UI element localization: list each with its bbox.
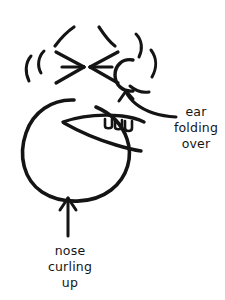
ear-label-line-1: ear [185, 104, 207, 119]
ear-folding-over-label: ear folding over [174, 104, 218, 151]
ear-pointer-arrow [119, 91, 176, 117]
ear-label-line-2: folding [174, 120, 218, 135]
motion-arc-top-right [99, 27, 115, 46]
motion-arc-right-outer [151, 50, 156, 77]
nose-label-line-2: curling [48, 259, 92, 274]
tooth-1 [105, 119, 112, 128]
ear-pointer-shaft [126, 92, 176, 117]
motion-arcs-group [26, 27, 155, 92]
squint-arrow-left-lower-barb [56, 67, 84, 83]
motion-arc-right-inner [136, 34, 141, 57]
sketch-canvas: ear folding over nose curling up [0, 0, 225, 300]
converging-arrows-group [56, 52, 118, 83]
squint-arrow-left-upper-barb [56, 52, 84, 67]
squint-arrow-right-upper-barb [90, 52, 118, 67]
motion-arc-top-left [55, 27, 74, 46]
nose-label-line-3: up [62, 275, 78, 290]
nose-label-line-1: nose [55, 243, 86, 258]
ear-label-line-3: over [182, 136, 211, 151]
tooth-3 [125, 121, 132, 131]
ear-pointer-barb-left [119, 91, 126, 101]
motion-arc-left-outer [26, 56, 31, 81]
sketch-illustration: ear folding over nose curling up [0, 0, 225, 300]
nose-curling-up-label: nose curling up [48, 243, 92, 290]
motion-arc-left-inner [39, 51, 44, 73]
nose-pointer-arrow [60, 198, 76, 236]
